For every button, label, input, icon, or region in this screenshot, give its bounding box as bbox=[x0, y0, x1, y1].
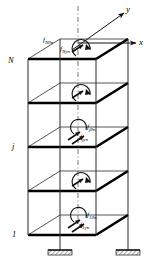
force-label-j-y: fjyn bbox=[80, 134, 88, 141]
force-label-1-y: f1yn bbox=[80, 222, 89, 229]
floor-label-j: j bbox=[12, 142, 14, 151]
force-label-1-theta: f1θn bbox=[87, 212, 96, 219]
force-label-j-theta: fjθn bbox=[87, 124, 95, 131]
building-vector-graphic bbox=[0, 0, 156, 270]
y-axis-label: y bbox=[126, 5, 130, 14]
support-left bbox=[48, 250, 72, 255]
floor-label-N: N bbox=[8, 56, 14, 65]
force-label-N-theta: fNθn bbox=[43, 37, 53, 44]
x-axis-label: x bbox=[139, 38, 143, 47]
support-right bbox=[116, 250, 140, 255]
floor-label-1: 1 bbox=[12, 230, 16, 239]
diagram-canvas: x y N j 1 fNθn fNyn fjθn fjyn f1θn f1yn bbox=[0, 0, 156, 270]
force-label-N-y: fNyn bbox=[60, 46, 70, 53]
